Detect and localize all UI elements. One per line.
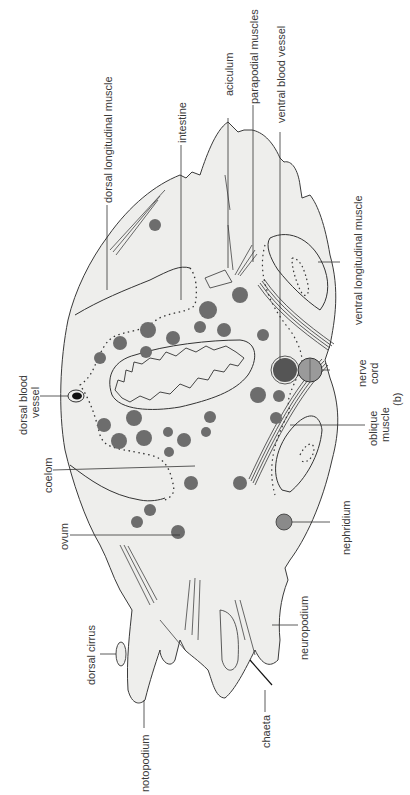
- label-parapodial-muscles: parapodial muscles: [248, 9, 260, 104]
- diagram-canvas: dorsal longitudinal muscle intestine aci…: [0, 0, 410, 795]
- label-neuropodium: neuropodium: [298, 596, 310, 660]
- label-ventral-longitudinal-muscle: ventral longitudinal muscle: [352, 195, 364, 325]
- panel-label: (b): [391, 393, 403, 406]
- nephridium: [276, 514, 292, 530]
- label-coelom: coelom: [42, 458, 54, 493]
- label-ventral-blood-vessel: ventral blood vessel: [275, 26, 287, 123]
- label-oblique-muscle-line2: muscle: [379, 407, 391, 442]
- cross-section-drawing: [0, 0, 410, 795]
- label-ovum: ovum: [58, 523, 70, 550]
- body-outline: [61, 122, 338, 703]
- label-intestine: intestine: [176, 102, 188, 143]
- label-aciculum: aciculum: [223, 53, 235, 96]
- label-dorsal-cirrus: dorsal cirrus: [85, 625, 97, 685]
- label-oblique-muscle-line1: oblique: [367, 411, 379, 446]
- label-dorsal-blood-vessel-line1: dorsal blood: [17, 375, 29, 435]
- label-dorsal-blood-vessel-line2: vessel: [29, 387, 41, 418]
- dorsal-cirrus-shape: [116, 642, 126, 666]
- label-nephridium: nephridium: [340, 501, 352, 555]
- label-nerve-cord-line1: nerve: [356, 359, 368, 387]
- label-nerve-cord-line2: cord: [368, 363, 380, 384]
- dorsal-vessel-lumen: [72, 393, 82, 400]
- label-chaeta: chaeta: [260, 715, 272, 748]
- label-notopodium: notopodium: [139, 735, 151, 793]
- label-dorsal-longitudinal-muscle: dorsal longitudinal muscle: [102, 76, 114, 203]
- ventral-blood-vessel: [273, 358, 297, 382]
